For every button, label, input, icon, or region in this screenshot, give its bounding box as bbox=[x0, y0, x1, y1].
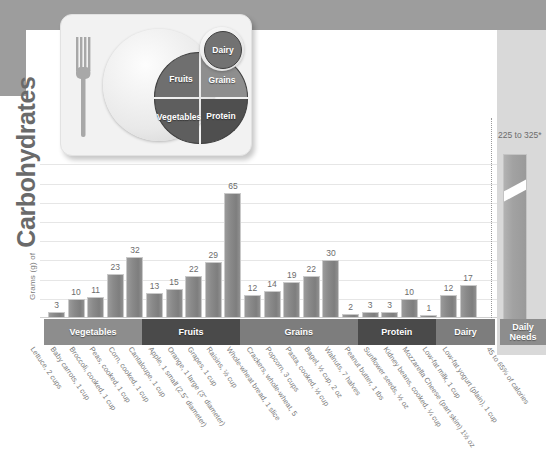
bar bbox=[303, 276, 320, 318]
bar bbox=[205, 262, 222, 318]
bar-value-label: 1 bbox=[416, 303, 441, 313]
bar-slot: 15 bbox=[166, 30, 183, 318]
category-band-protein: Protein bbox=[358, 319, 436, 345]
bar bbox=[440, 295, 457, 318]
x-axis-labels: Lettuce, 2 cupsBaby carrots, 1 cupBrocco… bbox=[0, 345, 546, 470]
bar-slot: 10 bbox=[68, 30, 85, 318]
bar bbox=[224, 193, 241, 318]
bar-slot: 29 bbox=[205, 30, 222, 318]
bar bbox=[68, 299, 85, 318]
bar-slot: 13 bbox=[146, 30, 163, 318]
category-band-vegetables: Vegetables bbox=[44, 319, 142, 345]
bar-slot: 23 bbox=[107, 30, 124, 318]
bar-slot: 32 bbox=[126, 30, 143, 318]
y-axis-title-units: Grams (g) of bbox=[28, 253, 37, 300]
bar bbox=[264, 291, 281, 318]
bar-value-label: 14 bbox=[260, 279, 285, 289]
bar-value-label: 30 bbox=[318, 248, 343, 258]
x-axis-label: 45 to 65% of calories bbox=[485, 345, 531, 406]
bar bbox=[185, 276, 202, 318]
bar-value-label: 15 bbox=[162, 277, 187, 287]
bar-slot: 3 bbox=[48, 30, 65, 318]
bar-slot: 11 bbox=[87, 30, 104, 318]
bar-value-label: 10 bbox=[397, 287, 422, 297]
bar-slot: 12 bbox=[244, 30, 261, 318]
bar bbox=[460, 285, 477, 318]
bar-slot: 3 bbox=[381, 30, 398, 318]
bar-value-label: 65 bbox=[220, 181, 245, 191]
bar bbox=[244, 295, 261, 318]
bar-value-label: 3 bbox=[44, 300, 69, 310]
axis-break-mark bbox=[503, 178, 527, 202]
category-band-grains: Grains bbox=[240, 319, 358, 345]
bar-slot: 10 bbox=[401, 30, 418, 318]
bar-slot: 1 bbox=[420, 30, 437, 318]
daily-needs-value-label: 225 to 325* bbox=[498, 130, 544, 141]
category-band-fruits: Fruits bbox=[142, 319, 240, 345]
bar-slot: 30 bbox=[322, 30, 339, 318]
bar-value-label: 12 bbox=[436, 283, 461, 293]
bar bbox=[322, 260, 339, 318]
category-band-daily-needs: DailyNeeds bbox=[500, 319, 546, 345]
bar-slot: 3 bbox=[362, 30, 379, 318]
bar bbox=[420, 315, 437, 318]
bar-slot: 22 bbox=[303, 30, 320, 318]
bar-slot: 65 bbox=[224, 30, 241, 318]
bar-slot: 19 bbox=[283, 30, 300, 318]
bar-value-label: 32 bbox=[122, 245, 147, 255]
bar bbox=[362, 312, 379, 318]
bar bbox=[401, 299, 418, 318]
category-band-dairy: Dairy bbox=[436, 319, 495, 345]
bar bbox=[283, 282, 300, 318]
bar bbox=[381, 312, 398, 318]
bar bbox=[146, 293, 163, 318]
bar-value-label: 11 bbox=[83, 285, 108, 295]
bar-slot: 22 bbox=[185, 30, 202, 318]
bar bbox=[48, 312, 65, 318]
bar bbox=[87, 297, 104, 318]
bar-slot: 12 bbox=[440, 30, 457, 318]
bar-value-label: 3 bbox=[377, 300, 402, 310]
bar bbox=[166, 289, 183, 318]
bar-slot: 2 bbox=[342, 30, 359, 318]
bar-slot: 14 bbox=[264, 30, 281, 318]
bar bbox=[342, 314, 359, 318]
bar-value-label: 17 bbox=[456, 273, 481, 283]
bar bbox=[107, 274, 124, 318]
bar bbox=[126, 257, 143, 318]
bar-value-label: 22 bbox=[299, 264, 324, 274]
bar-series: 310112332131522296512141922302331011217 bbox=[40, 30, 497, 318]
daily-needs-bar bbox=[503, 154, 527, 320]
y-axis-title-main: Carbohydrates bbox=[12, 76, 41, 247]
bar-slot: 17 bbox=[460, 30, 477, 318]
bar-value-label: 29 bbox=[201, 250, 226, 260]
bar-value-label: 23 bbox=[103, 262, 128, 272]
bar-value-label: 22 bbox=[181, 264, 206, 274]
